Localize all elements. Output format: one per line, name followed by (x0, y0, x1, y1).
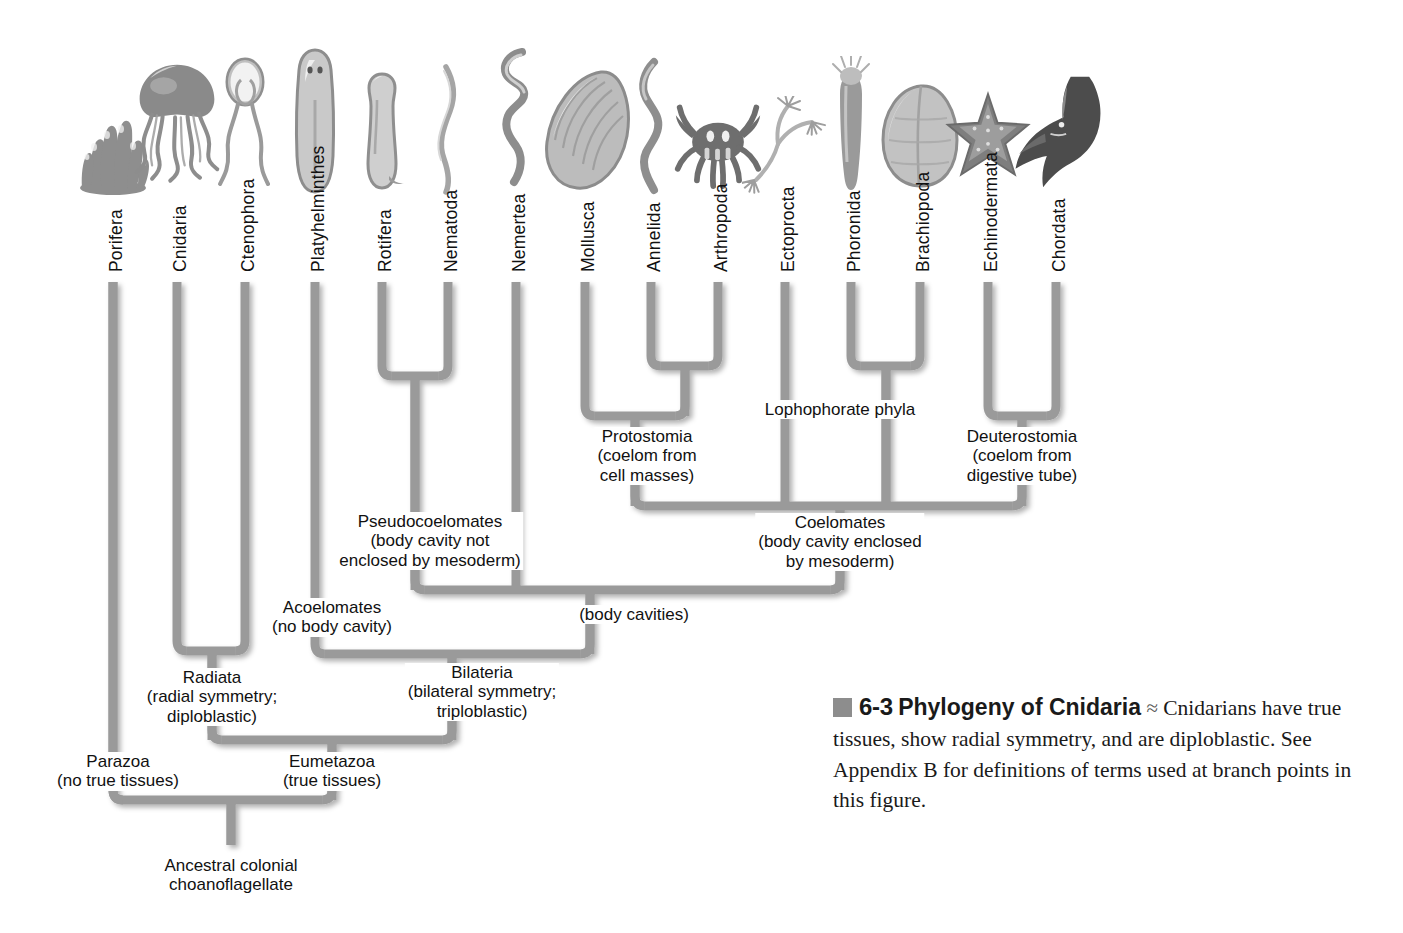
figure-number: 6-3 (859, 693, 893, 720)
branch-drop (851, 282, 861, 366)
caption-separator-icon: ≈ (1146, 696, 1158, 720)
phylogeny-figure: Porifera Cnidaria Ctenophora Platyhelmin… (0, 0, 1403, 933)
taxon-label-nematoda: Nematoda (441, 190, 462, 272)
clade-label-radiata: Radiata (radial symmetry; diploblastic) (144, 668, 280, 726)
taxon-label-ectoprocta: Ectoprocta (778, 186, 799, 272)
taxon-label-brachiopoda: Brachiopoda (913, 172, 934, 272)
branch-drop (235, 282, 245, 651)
branch-drop (708, 282, 718, 366)
branch-drop (1046, 282, 1056, 416)
taxon-label-mollusca: Mollusca (578, 201, 599, 272)
branch-drop (988, 282, 998, 416)
branch-drop (438, 282, 448, 376)
clade-label-bilateria: Bilateria (bilateral symmetry; triplobla… (405, 663, 559, 721)
clade-label-protostomia: Protostomia (coelom from cell masses) (594, 427, 699, 485)
clade-label-body-cavities: (body cavities) (576, 605, 692, 624)
caption-swatch-icon (833, 698, 852, 717)
taxon-label-phoronida: Phoronida (844, 190, 865, 272)
clade-label-lophophorate: Lophophorate phyla (762, 400, 918, 419)
taxon-label-chordata: Chordata (1049, 198, 1070, 272)
branch-porifera (113, 282, 123, 800)
clade-label-eumetazoa: Eumetazoa (true tissues) (280, 752, 384, 791)
taxon-label-annelida: Annelida (644, 202, 665, 272)
branch-drop (910, 282, 920, 366)
taxon-label-platyhelminthes: Platyhelminthes (308, 145, 329, 272)
branch-drop (585, 282, 595, 416)
taxon-label-cnidaria: Cnidaria (170, 205, 191, 272)
clade-label-pseudocoelomates: Pseudocoelomates (body cavity not enclos… (336, 512, 523, 570)
shark-icon (1010, 46, 1102, 196)
clade-label-acoelomates: Acoelomates (no body cavity) (269, 598, 395, 637)
clade-label-parazoa: Parazoa (no true tissues) (54, 752, 182, 791)
branch-drop (382, 282, 392, 376)
branch-drop (651, 282, 661, 366)
figure-title: Phylogeny of Cnidaria (898, 694, 1141, 720)
clade-label-deuterostomia: Deuterostomia (coelom from digestive tub… (964, 427, 1081, 485)
taxon-label-porifera: Porifera (106, 209, 127, 272)
taxon-label-nemertea: Nemertea (509, 194, 530, 272)
taxon-label-ctenophora: Ctenophora (238, 179, 259, 272)
clade-label-ancestor: Ancestral colonial choanoflagellate (161, 856, 300, 895)
branch-drop (177, 282, 187, 651)
figure-caption: 6-3 Phylogeny of Cnidaria ≈ Cnidarians h… (833, 690, 1373, 816)
taxon-label-arthropoda: Arthropoda (711, 183, 732, 272)
clade-label-coelomates: Coelomates (body cavity enclosed by meso… (755, 513, 924, 571)
taxon-label-echinodermata: Echinodermata (981, 152, 1002, 272)
branch-drop (675, 366, 685, 416)
taxon-label-rotifera: Rotifera (375, 209, 396, 272)
